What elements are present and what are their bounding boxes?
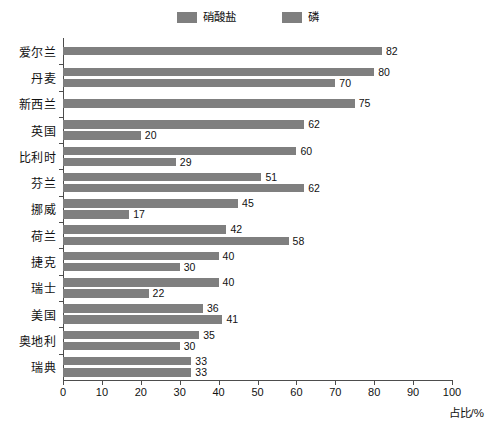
bar-value-label: 17 bbox=[133, 209, 145, 220]
x-axis-tick bbox=[180, 380, 181, 385]
plot-area: 8280707562206029516245174258403040223641… bbox=[63, 38, 452, 380]
x-axis-tick-label: 90 bbox=[407, 386, 419, 398]
bar-row: 4022 bbox=[63, 275, 452, 301]
bar-value-label: 35 bbox=[203, 330, 215, 341]
y-axis-tick bbox=[59, 64, 63, 65]
bar-line: 80 bbox=[63, 68, 452, 77]
bar-phosphorus[interactable] bbox=[63, 315, 222, 324]
bar-row: 6220 bbox=[63, 117, 452, 143]
category-label: 奥地利 bbox=[0, 327, 56, 353]
bar-nitrate[interactable] bbox=[63, 304, 203, 313]
legend-item[interactable]: 磷 bbox=[282, 12, 319, 24]
bar-value-label: 82 bbox=[386, 46, 398, 57]
bar-row: 3530 bbox=[63, 327, 452, 353]
y-axis-tick bbox=[59, 301, 63, 302]
bar-value-label: 33 bbox=[195, 356, 207, 367]
bar-line: 70 bbox=[63, 79, 452, 88]
legend-item[interactable]: 硝酸盐 bbox=[177, 12, 236, 24]
x-axis-tick-label: 100 bbox=[443, 386, 461, 398]
bar-phosphorus[interactable] bbox=[63, 263, 180, 272]
bar-line: 35 bbox=[63, 331, 452, 340]
bar-value-label: 62 bbox=[308, 119, 320, 130]
x-axis-tick-label: 70 bbox=[329, 386, 341, 398]
bar-value-label: 36 bbox=[207, 303, 219, 314]
bar-line: 58 bbox=[63, 237, 452, 246]
bar-phosphorus[interactable] bbox=[63, 131, 141, 140]
category-label: 荷兰 bbox=[0, 222, 56, 248]
bar-value-label: 40 bbox=[223, 277, 235, 288]
bar-value-label: 51 bbox=[265, 172, 277, 183]
bar-nitrate[interactable] bbox=[63, 147, 296, 156]
bar-phosphorus[interactable] bbox=[63, 289, 149, 298]
bar-nitrate[interactable] bbox=[63, 278, 219, 287]
y-axis-tick bbox=[59, 354, 63, 355]
bar-value-label: 41 bbox=[226, 314, 238, 325]
bar-line: 29 bbox=[63, 158, 452, 167]
y-axis-tick bbox=[59, 169, 63, 170]
bar-phosphorus[interactable] bbox=[63, 79, 335, 88]
category-label: 美国 bbox=[0, 301, 56, 327]
x-axis-tick bbox=[452, 380, 453, 385]
x-axis-tick-label: 50 bbox=[251, 386, 263, 398]
bar-nitrate[interactable] bbox=[63, 120, 304, 129]
x-axis-tick-label: 80 bbox=[368, 386, 380, 398]
x-axis-tick-label: 0 bbox=[60, 386, 66, 398]
bar-line: 75 bbox=[63, 99, 452, 108]
y-axis-tick bbox=[59, 327, 63, 328]
category-axis-labels: 爱尔兰丹麦新西兰英国比利时芬兰挪威荷兰捷克瑞士美国奥地利瑞典 bbox=[0, 38, 56, 380]
bar-phosphorus[interactable] bbox=[63, 184, 304, 193]
bar-row: 4258 bbox=[63, 222, 452, 248]
bar-value-label: 20 bbox=[145, 130, 157, 141]
bar-nitrate[interactable] bbox=[63, 173, 261, 182]
bar-line: 33 bbox=[63, 368, 452, 377]
bar-nitrate[interactable] bbox=[63, 225, 226, 234]
x-axis-title: 占比/% bbox=[449, 404, 484, 420]
bar-line: 17 bbox=[63, 210, 452, 219]
category-label: 芬兰 bbox=[0, 169, 56, 195]
x-axis-tick-label: 20 bbox=[135, 386, 147, 398]
bar-phosphorus[interactable] bbox=[63, 342, 180, 351]
legend-item-label: 磷 bbox=[308, 12, 319, 24]
bar-row: 8070 bbox=[63, 64, 452, 90]
bar-value-label: 45 bbox=[242, 198, 254, 209]
bar-line: 30 bbox=[63, 342, 452, 351]
bar-phosphorus[interactable] bbox=[63, 210, 129, 219]
x-axis-tick bbox=[258, 380, 259, 385]
bar-line: 20 bbox=[63, 131, 452, 140]
legend-swatch-icon bbox=[282, 12, 302, 23]
bar-nitrate[interactable] bbox=[63, 357, 191, 366]
x-axis-tick bbox=[102, 380, 103, 385]
bar-value-label: 30 bbox=[184, 341, 196, 352]
x-axis-tick-labels: 0102030405060708090100 bbox=[0, 386, 496, 402]
bar-nitrate[interactable] bbox=[63, 47, 382, 56]
bar-phosphorus[interactable] bbox=[63, 368, 191, 377]
bar-value-label: 40 bbox=[223, 251, 235, 262]
bar-line: 45 bbox=[63, 199, 452, 208]
category-label: 新西兰 bbox=[0, 91, 56, 117]
bar-nitrate[interactable] bbox=[63, 252, 219, 261]
category-label: 挪威 bbox=[0, 196, 56, 222]
bar-value-label: 29 bbox=[180, 157, 192, 168]
bar-line: 60 bbox=[63, 147, 452, 156]
x-axis-tick bbox=[141, 380, 142, 385]
bar-line: 40 bbox=[63, 252, 452, 261]
bar-nitrate[interactable] bbox=[63, 331, 199, 340]
bar-phosphorus[interactable] bbox=[63, 158, 176, 167]
bar-value-label: 80 bbox=[378, 67, 390, 78]
x-axis-tick bbox=[219, 380, 220, 385]
category-label: 瑞典 bbox=[0, 354, 56, 380]
bar-row: 4030 bbox=[63, 248, 452, 274]
x-axis-tick-label: 40 bbox=[212, 386, 224, 398]
bar-value-label: 30 bbox=[184, 262, 196, 273]
bar-nitrate[interactable] bbox=[63, 68, 374, 77]
bar-value-label: 42 bbox=[230, 224, 242, 235]
chart-legend: 硝酸盐磷 bbox=[0, 12, 496, 24]
category-label: 捷克 bbox=[0, 248, 56, 274]
bar-line: 41 bbox=[63, 315, 452, 324]
legend-swatch-icon bbox=[177, 12, 197, 23]
bar-nitrate[interactable] bbox=[63, 199, 238, 208]
y-axis-tick bbox=[59, 117, 63, 118]
bar-nitrate[interactable] bbox=[63, 99, 355, 108]
bar-phosphorus[interactable] bbox=[63, 237, 289, 246]
y-axis-tick bbox=[59, 222, 63, 223]
